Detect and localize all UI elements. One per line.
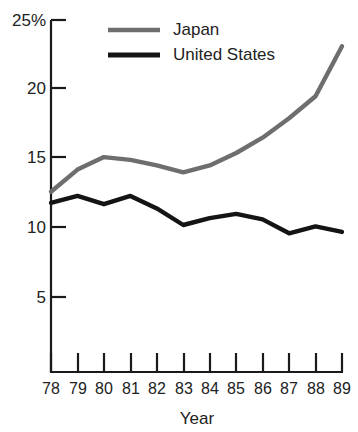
x-tick-label-88: 88 (307, 380, 325, 397)
x-tick-label-79: 79 (69, 380, 87, 397)
legend-label-united-states: United States (173, 45, 275, 64)
x-tick-label-85: 85 (227, 380, 245, 397)
y-tick-label-5: 5 (37, 288, 46, 307)
y-tick-label-15: 15 (27, 148, 46, 167)
x-tick-label-89: 89 (333, 380, 351, 397)
series-line-united-states (51, 196, 342, 233)
x-tick-label-83: 83 (175, 380, 193, 397)
x-tick-label-81: 81 (122, 380, 140, 397)
x-tick-label-87: 87 (280, 380, 298, 397)
legend: Japan United States (108, 20, 275, 64)
x-tick-label-82: 82 (148, 380, 166, 397)
y-tick-label-25: 25% (12, 11, 46, 30)
legend-label-japan: Japan (173, 20, 219, 39)
chart-container: 25% 20 15 10 5 78 79 80 81 82 83 84 85 8… (0, 0, 358, 432)
y-tick-label-10: 10 (27, 218, 46, 237)
x-tick-label-86: 86 (254, 380, 272, 397)
line-chart: 25% 20 15 10 5 78 79 80 81 82 83 84 85 8… (0, 0, 358, 432)
x-axis-title: Year (180, 409, 215, 428)
series-line-japan (51, 46, 342, 191)
x-tick-label-78: 78 (42, 380, 60, 397)
x-tick-label-80: 80 (95, 380, 113, 397)
x-tick-label-84: 84 (201, 380, 219, 397)
y-tick-label-20: 20 (27, 79, 46, 98)
